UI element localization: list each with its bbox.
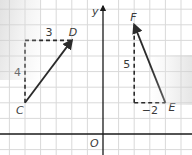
diagram-canvas: y O C D 3 4 E F −2 5 [0, 0, 192, 155]
vector-cd-vertical-label: 4 [14, 66, 21, 79]
grid-lines [0, 0, 192, 155]
vector-cd-horizontal-label: 3 [45, 26, 52, 39]
coordinate-diagram: y O C D 3 4 E F −2 5 [0, 0, 192, 155]
vector-ef-group: E F −2 5 [123, 11, 175, 117]
vector-cd-end-label: D [69, 26, 77, 39]
origin-label: O [90, 137, 99, 150]
vector-ef-horizontal-label: −2 [142, 104, 158, 117]
vector-ef-start-label: E [168, 101, 175, 114]
vector-ef-end-label: F [130, 11, 137, 24]
vector-cd-start-label: C [16, 104, 24, 117]
y-axis-label: y [91, 5, 99, 18]
vector-ef-vertical-label: 5 [123, 58, 130, 71]
